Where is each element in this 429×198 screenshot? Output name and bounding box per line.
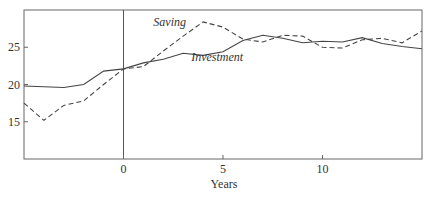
x-tick-label: 5 — [220, 162, 226, 176]
series-saving-line — [24, 22, 422, 120]
y-tick-label: 15 — [8, 115, 20, 129]
x-axis: 0510 — [121, 155, 329, 176]
y-tick-label: 25 — [8, 40, 20, 54]
y-axis: 152025 — [8, 40, 28, 129]
series-saving-label: Saving — [153, 15, 186, 29]
series-investment-label: Investment — [190, 50, 244, 64]
y-tick-label: 20 — [8, 78, 20, 92]
series-lines — [24, 22, 422, 120]
line-chart: 152025 0510 Years SavingInvestment — [0, 0, 429, 198]
series-labels: SavingInvestment — [153, 15, 243, 64]
x-tick-label: 0 — [121, 162, 127, 176]
x-tick-label: 10 — [317, 162, 329, 176]
x-axis-title: Years — [211, 177, 238, 191]
